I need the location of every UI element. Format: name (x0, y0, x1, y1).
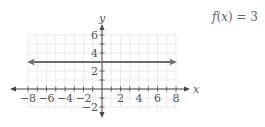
y-tick-label: 6 (91, 29, 98, 42)
y-tick-label: 4 (91, 47, 98, 60)
y-tick-label: −2 (82, 101, 98, 114)
graph: −8−6−4−22468−2246xy (0, 0, 265, 127)
x-tick-label: 8 (173, 92, 180, 105)
x-axis-left-arrow-icon (10, 87, 16, 92)
y-axis-label: y (98, 12, 106, 25)
x-tick-label: 2 (117, 92, 124, 105)
x-tick-label: −6 (38, 92, 54, 105)
x-tick-label: −8 (20, 92, 36, 105)
x-tick-label: 4 (136, 92, 143, 105)
x-tick-label: −4 (57, 92, 73, 105)
x-axis-label: x (193, 83, 200, 96)
y-axis-down-arrow-icon (100, 112, 105, 118)
y-tick-label: 2 (91, 65, 98, 78)
x-tick-label: 6 (154, 92, 161, 105)
x-axis-right-arrow-icon (184, 87, 190, 92)
